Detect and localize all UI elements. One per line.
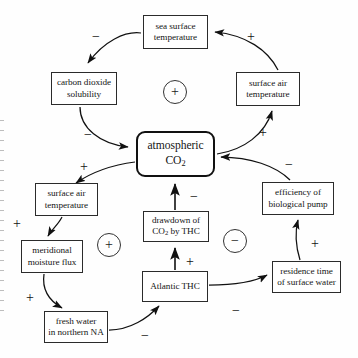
loop-marker-right-negative: − — [223, 229, 247, 253]
loop-marker-top-positive: + — [163, 80, 187, 104]
node-label: fresh water in northern NA — [47, 316, 104, 338]
sign-sst-to-solubility: − — [92, 30, 100, 44]
node-meridional-moisture-flux[interactable]: meridional moisture flux — [21, 240, 83, 273]
edge-pump-to-co2 — [221, 157, 290, 180]
sign-co2-to-sat-upper: + — [259, 126, 267, 140]
node-label: meridional moisture flux — [27, 245, 78, 267]
node-fresh-water-northern-na[interactable]: fresh water in northern NA — [44, 311, 108, 343]
node-residence-time-surface-water[interactable]: residence time of surface water — [272, 261, 341, 293]
node-label: surface air temperature — [44, 188, 89, 210]
node-surface-air-temperature-lower[interactable]: surface air temperature — [35, 183, 98, 216]
sign-freshwater-to-thc: − — [141, 329, 149, 343]
node-drawdown-co2-by-thc[interactable]: drawdown of CO2 by THC — [143, 211, 209, 242]
sign-moisture-to-freshwater: + — [26, 291, 34, 305]
loop-marker-glyph: − — [231, 234, 239, 248]
sign-co2-to-sat-lower: + — [80, 160, 88, 174]
node-label: efficiency of biological pump — [267, 187, 328, 209]
sign-thc-to-residence: − — [232, 304, 240, 318]
sign-pump-to-co2: − — [285, 158, 293, 172]
sign-thc-to-drawdown: + — [186, 255, 194, 269]
edge-freshwater-to-thc — [109, 306, 159, 330]
node-surface-air-temperature-upper[interactable]: surface air temperature — [236, 72, 300, 106]
loop-marker-glyph: + — [105, 238, 113, 252]
co2-subscript: 2 — [181, 159, 185, 168]
sign-sat-to-moisture: + — [13, 217, 21, 231]
diagram-arrow-layer — [0, 0, 358, 358]
edge-sat-to-moisture — [48, 217, 62, 236]
loop-marker-glyph: + — [171, 85, 179, 99]
sign-residence-to-pump: + — [311, 237, 319, 251]
node-label: Atlantic THC — [149, 281, 201, 292]
node-label: drawdown of CO2 by THC — [151, 215, 201, 238]
loop-marker-left-positive: + — [97, 233, 121, 257]
node-efficiency-biological-pump[interactable]: efficiency of biological pump — [262, 182, 334, 215]
sign-solubility-to-co2: − — [84, 128, 92, 142]
node-carbon-dioxide-solubility[interactable]: carbon dioxide solubility — [51, 72, 117, 105]
causal-loop-diagram: sea surface temperature carbon dioxide s… — [0, 0, 358, 358]
node-label: carbon dioxide solubility — [56, 77, 112, 99]
edge-residence-to-pump — [296, 220, 300, 260]
node-label: sea surface temperature — [153, 21, 198, 43]
node-label: atmospheric CO2 — [146, 138, 204, 170]
node-atlantic-thc[interactable]: Atlantic THC — [142, 271, 208, 302]
edge-moisture-to-freshwater — [44, 274, 62, 308]
node-sea-surface-temperature[interactable]: sea surface temperature — [143, 15, 208, 49]
sign-drawdown-to-co2: − — [190, 190, 198, 204]
node-label: surface air temperature — [245, 78, 290, 100]
node-atmospheric-co2[interactable]: atmospheric CO2 — [136, 131, 215, 177]
sign-sat-to-sst: + — [247, 30, 255, 44]
node-label: residence time of surface water — [276, 266, 336, 288]
edge-thc-to-residence — [209, 275, 267, 285]
